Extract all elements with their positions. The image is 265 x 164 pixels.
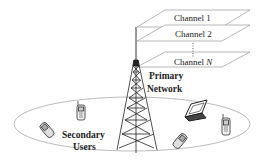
cell-phone-right-icon xyxy=(222,114,230,135)
secondary-users-label: Secondary xyxy=(62,130,105,140)
secondary-users-label-2: Users xyxy=(73,142,96,152)
channel-1-label: Channel 1 xyxy=(174,13,211,23)
channel-n-label: Channel N xyxy=(174,57,213,67)
flip-phone-right-icon xyxy=(172,132,188,149)
laptop-icon xyxy=(185,100,207,121)
channel-2-label: Channel 2 xyxy=(175,29,212,39)
flip-phone-left-icon xyxy=(39,121,55,138)
primary-network-label-2: Network xyxy=(147,84,183,94)
cognitive-radio-diagram: Channel 1 Channel 2 Channel N Primary Ne… xyxy=(0,0,265,164)
primary-network-label: Primary xyxy=(149,71,184,81)
cell-phone-left-icon xyxy=(77,101,85,120)
